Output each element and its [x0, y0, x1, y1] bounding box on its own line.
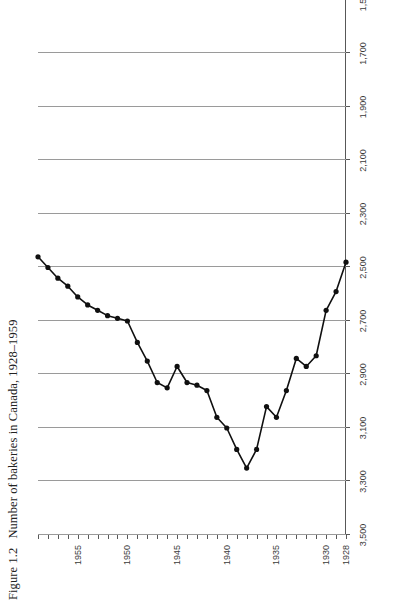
- time-tick: [237, 535, 238, 539]
- value-axis-label: 1,900: [358, 96, 368, 119]
- data-point: [184, 380, 189, 385]
- data-point: [155, 380, 160, 385]
- time-tick: [108, 535, 109, 539]
- data-point: [45, 265, 50, 270]
- time-tick: [227, 535, 228, 539]
- data-point: [75, 294, 80, 299]
- value-tick: [346, 267, 350, 268]
- data-point: [214, 415, 219, 420]
- data-point: [343, 260, 348, 265]
- data-point: [95, 308, 100, 313]
- data-point: [294, 356, 299, 361]
- time-tick: [137, 535, 138, 539]
- time-axis-label: 1930: [321, 545, 331, 565]
- time-tick: [187, 535, 188, 539]
- time-axis-label: 1945: [172, 545, 182, 565]
- data-point: [264, 404, 269, 409]
- time-tick: [167, 535, 168, 539]
- value-tick: [346, 481, 350, 482]
- time-tick: [48, 535, 49, 539]
- data-point: [244, 466, 249, 471]
- time-tick: [296, 535, 297, 539]
- figure-number: Figure 1.2: [6, 548, 20, 600]
- data-point: [284, 388, 289, 393]
- value-axis-label: 2,700: [358, 310, 368, 333]
- time-tick: [157, 535, 158, 539]
- data-point: [35, 254, 40, 259]
- value-axis-label: 3,500: [358, 524, 368, 547]
- time-tick: [58, 535, 59, 539]
- data-point: [105, 313, 110, 318]
- value-axis-label: 2,500: [358, 256, 368, 279]
- time-tick: [78, 535, 79, 539]
- time-axis-label: 1955: [73, 545, 83, 565]
- value-axis-label: 2,300: [358, 203, 368, 226]
- value-axis-label: 1,700: [358, 42, 368, 65]
- value-tick: [346, 106, 350, 107]
- data-point: [115, 316, 120, 321]
- time-axis-label: 1935: [271, 545, 281, 565]
- data-point: [324, 308, 329, 313]
- data-point: [314, 353, 319, 358]
- value-axis-label: 2,900: [358, 363, 368, 386]
- value-tick: [346, 374, 350, 375]
- value-tick: [346, 320, 350, 321]
- plot-area: 1,5001,7001,9002,1002,3002,5002,7002,900…: [38, 0, 346, 535]
- time-tick: [68, 535, 69, 539]
- time-tick: [257, 535, 258, 539]
- time-tick: [217, 535, 218, 539]
- time-tick: [147, 535, 148, 539]
- data-point: [194, 383, 199, 388]
- time-tick: [88, 535, 89, 539]
- value-tick: [346, 427, 350, 428]
- time-tick: [117, 535, 118, 539]
- data-point: [175, 364, 180, 369]
- figure-rotator: Figure 1.2Number of bakeries in Canada, …: [0, 0, 406, 606]
- data-point: [85, 302, 90, 307]
- time-axis-label: 1928: [341, 545, 351, 565]
- value-axis-label: 3,100: [358, 417, 368, 440]
- data-point: [55, 276, 60, 281]
- time-tick: [177, 535, 178, 539]
- time-tick: [247, 535, 248, 539]
- data-point: [333, 289, 338, 294]
- value-tick: [346, 53, 350, 54]
- time-tick: [207, 535, 208, 539]
- data-point: [224, 425, 229, 430]
- data-point: [254, 447, 259, 452]
- time-tick: [316, 535, 317, 539]
- data-point: [135, 340, 140, 345]
- time-tick: [38, 535, 39, 539]
- time-tick: [346, 535, 347, 539]
- time-axis-label: 1950: [122, 545, 132, 565]
- data-point: [234, 447, 239, 452]
- data-point: [165, 385, 170, 390]
- time-tick: [98, 535, 99, 539]
- value-axis-label: 2,100: [358, 149, 368, 172]
- data-point: [125, 318, 130, 323]
- figure-caption: Figure 1.2Number of bakeries in Canada, …: [6, 319, 21, 600]
- data-series-bakeries: [38, 0, 346, 535]
- data-point: [145, 359, 150, 364]
- figure-caption-text: Number of bakeries in Canada, 1928–1959: [6, 319, 20, 538]
- value-axis-label: 1,500: [358, 0, 368, 11]
- time-tick: [276, 535, 277, 539]
- time-tick: [286, 535, 287, 539]
- value-tick: [346, 160, 350, 161]
- time-tick: [127, 535, 128, 539]
- data-point: [204, 388, 209, 393]
- time-tick: [197, 535, 198, 539]
- time-tick: [326, 535, 327, 539]
- data-point: [65, 284, 70, 289]
- time-tick: [336, 535, 337, 539]
- data-point: [304, 364, 309, 369]
- series-line: [38, 257, 346, 468]
- data-point: [274, 415, 279, 420]
- time-tick: [306, 535, 307, 539]
- time-tick: [267, 535, 268, 539]
- value-axis-label: 3,300: [358, 470, 368, 493]
- time-axis-label: 1940: [222, 545, 232, 565]
- value-tick: [346, 213, 350, 214]
